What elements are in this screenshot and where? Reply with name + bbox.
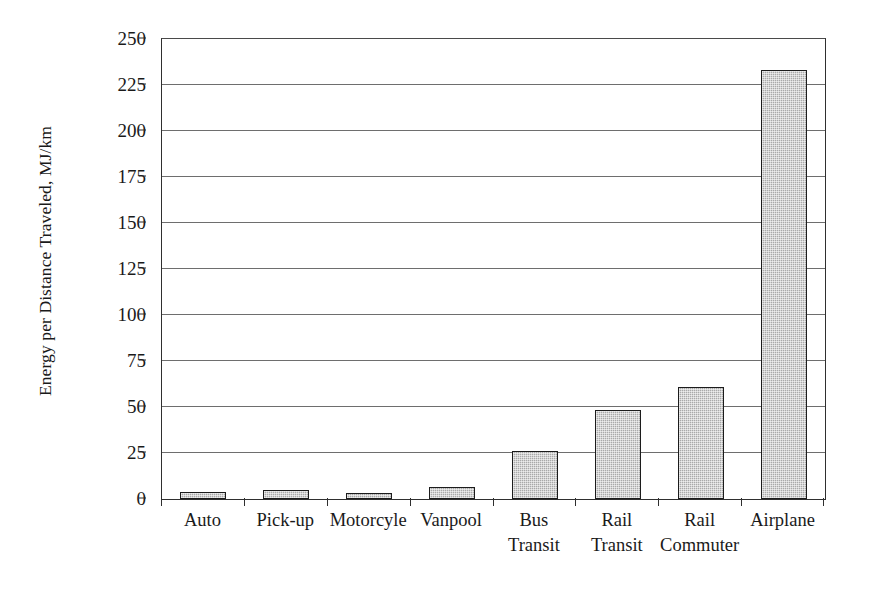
x-axis-tick-mark bbox=[741, 498, 742, 506]
x-axis-tick-mark bbox=[575, 498, 576, 506]
x-axis-tick-mark bbox=[161, 498, 162, 506]
x-axis-category-label-line: Rail bbox=[575, 508, 658, 533]
y-axis-tick-mark bbox=[139, 222, 146, 223]
y-axis-tick-mark bbox=[139, 38, 146, 39]
bar-slot bbox=[576, 39, 659, 499]
bar-slot bbox=[659, 39, 742, 499]
y-axis-tick-label: 250 bbox=[74, 29, 146, 48]
bar[interactable] bbox=[595, 410, 641, 499]
bar[interactable] bbox=[761, 70, 807, 499]
x-axis-tick-labels: AutoPick-upMotorcyleVanpoolBusTransitRai… bbox=[161, 508, 824, 588]
x-axis-tick-mark bbox=[823, 498, 824, 506]
x-axis-tick-mark bbox=[493, 498, 494, 506]
y-axis-tick-mark bbox=[139, 360, 146, 361]
y-axis-tick-label: 0 bbox=[74, 489, 146, 508]
x-axis-category-label: Vanpool bbox=[410, 508, 493, 533]
x-axis-tick-mark bbox=[410, 498, 411, 506]
x-axis-category-label-line: Transit bbox=[493, 533, 576, 558]
y-axis-tick-mark bbox=[139, 314, 146, 315]
y-axis-tick-mark bbox=[139, 84, 146, 85]
y-axis-title: Energy per Distance Traveled, MJ/km bbox=[30, 2, 60, 520]
y-axis-tick-label: 75 bbox=[74, 351, 146, 370]
x-axis-category-label-line: Airplane bbox=[741, 508, 824, 533]
x-axis-tick-mark bbox=[327, 498, 328, 506]
y-axis-tick-mark bbox=[139, 176, 146, 177]
x-axis-category-label-line: Vanpool bbox=[410, 508, 493, 533]
y-axis-tick-mark bbox=[139, 268, 146, 269]
y-axis-tick-mark bbox=[139, 130, 146, 131]
bar-slot bbox=[245, 39, 328, 499]
y-axis-tick-label: 100 bbox=[74, 305, 146, 324]
y-axis-tick-label: 150 bbox=[74, 213, 146, 232]
x-axis-category-label: Pick-up bbox=[244, 508, 327, 533]
x-axis-tick-mark bbox=[244, 498, 245, 506]
x-axis-category-label-line: Pick-up bbox=[244, 508, 327, 533]
y-axis-tick-label: 175 bbox=[74, 167, 146, 186]
bar-slot bbox=[742, 39, 825, 499]
bar-slot bbox=[162, 39, 245, 499]
y-axis-tick-label: 125 bbox=[74, 259, 146, 278]
bars-layer bbox=[162, 39, 825, 499]
plot-area bbox=[161, 38, 826, 500]
x-axis-category-label: Motorcyle bbox=[327, 508, 410, 533]
x-axis-category-label: BusTransit bbox=[493, 508, 576, 558]
y-axis-tick-label: 25 bbox=[74, 443, 146, 462]
y-axis-tick-labels: 2502252001751501251007550250 bbox=[74, 20, 146, 540]
x-axis-category-label: Auto bbox=[161, 508, 244, 533]
x-axis-tick-marks bbox=[161, 498, 824, 508]
x-axis-category-label-line: Commuter bbox=[658, 533, 741, 558]
y-axis-tick-label: 225 bbox=[74, 75, 146, 94]
x-axis-tick-mark bbox=[658, 498, 659, 506]
x-axis-category-label-line: Transit bbox=[575, 533, 658, 558]
x-axis-category-label-line: Auto bbox=[161, 508, 244, 533]
y-axis-tick-mark bbox=[139, 406, 146, 407]
bar[interactable] bbox=[512, 451, 558, 499]
bar-chart: Energy per Distance Traveled, MJ/km 2502… bbox=[0, 0, 873, 595]
bar-slot bbox=[411, 39, 494, 499]
x-axis-category-label-line: Bus bbox=[493, 508, 576, 533]
x-axis-category-label: RailTransit bbox=[575, 508, 658, 558]
y-axis-tick-label: 50 bbox=[74, 397, 146, 416]
x-axis-category-label-line: Motorcyle bbox=[327, 508, 410, 533]
bar-slot bbox=[494, 39, 577, 499]
y-axis-tick-label: 200 bbox=[74, 121, 146, 140]
y-axis-tick-mark bbox=[139, 452, 146, 453]
x-axis-category-label: Airplane bbox=[741, 508, 824, 533]
bar-slot bbox=[328, 39, 411, 499]
x-axis-category-label-line: Rail bbox=[658, 508, 741, 533]
bar[interactable] bbox=[678, 387, 724, 499]
x-axis-category-label: RailCommuter bbox=[658, 508, 741, 558]
y-axis-tick-mark bbox=[139, 498, 146, 499]
